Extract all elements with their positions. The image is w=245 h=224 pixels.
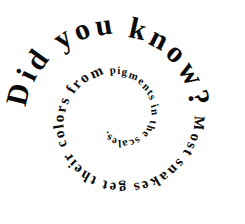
spiral-glyph: M [191,116,208,131]
spiral-glyph: o [51,115,67,123]
spiral-text-image: Didyouknow?Mostsnakesgettheircolorsfromp… [0,0,245,224]
spiral-glyph: i [117,64,120,76]
spiral-text-canvas: Didyouknow?Mostsnakesgettheircolorsfromp… [0,0,245,224]
